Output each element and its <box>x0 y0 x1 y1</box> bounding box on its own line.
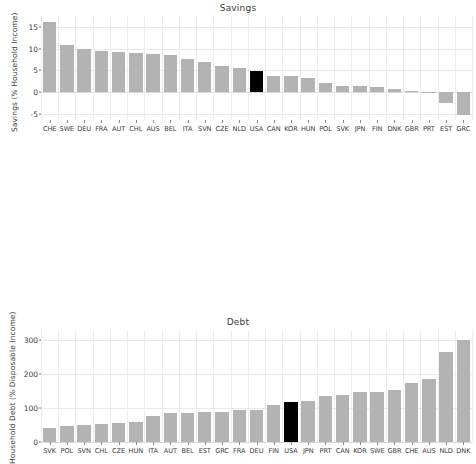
debt-y-tick-label: 300 <box>24 336 38 345</box>
debt-x-tick-mark <box>429 442 430 445</box>
x-label-grc: GRC <box>215 447 229 455</box>
x-label-cze: CZE <box>112 447 125 455</box>
bar-ita <box>146 416 159 442</box>
savings-vertical-gridline <box>403 16 404 120</box>
savings-x-tick-mark <box>377 120 378 123</box>
x-label-kor: KOR <box>353 447 366 455</box>
bar-chl <box>129 53 142 92</box>
savings-vertical-gridline <box>127 16 128 120</box>
x-label-svn: SVN <box>198 125 211 133</box>
savings-chart-title: Savings <box>0 3 476 13</box>
debt-vertical-gridline <box>162 330 163 442</box>
debt-vertical-gridline <box>351 330 352 442</box>
bar-grc <box>215 412 228 442</box>
x-label-deu: DEU <box>77 125 91 133</box>
savings-vertical-gridline <box>334 16 335 120</box>
bar-svn <box>198 62 211 91</box>
savings-x-tick-mark <box>274 120 275 123</box>
debt-x-tick-mark <box>188 442 189 445</box>
x-label-ita: ITA <box>148 447 158 455</box>
bar-aus <box>146 54 159 92</box>
bar-jpn <box>353 86 366 92</box>
x-label-aut: AUT <box>112 125 125 133</box>
savings-x-tick-mark <box>84 120 85 123</box>
debt-gridline <box>41 374 472 375</box>
debt-y-axis-label: Household Debt (% Disposable Income) <box>8 311 17 464</box>
bar-aut <box>112 52 125 91</box>
savings-x-tick-mark <box>446 120 447 123</box>
x-label-fra: FRA <box>95 125 107 133</box>
savings-gridline <box>41 49 472 50</box>
x-label-swe: SWE <box>60 125 75 133</box>
x-label-aus: AUS <box>146 125 159 133</box>
debt-y-tick-label: 100 <box>24 404 38 413</box>
x-label-fin: FIN <box>372 125 382 133</box>
debt-vertical-gridline <box>420 330 421 442</box>
debt-vertical-gridline <box>455 330 456 442</box>
bar-svk <box>43 428 56 442</box>
savings-vertical-gridline <box>58 16 59 120</box>
debt-y-tick-label: 0 <box>33 438 38 447</box>
savings-vertical-gridline <box>420 16 421 120</box>
bar-gbr <box>388 390 401 442</box>
savings-x-tick-mark <box>153 120 154 123</box>
debt-x-tick-mark <box>360 442 361 445</box>
debt-vertical-gridline <box>438 330 439 442</box>
x-label-est: EST <box>199 447 211 455</box>
debt-vertical-gridline <box>231 330 232 442</box>
bar-pol <box>60 426 73 442</box>
x-label-bel: BEL <box>164 125 176 133</box>
debt-vertical-gridline <box>58 330 59 442</box>
debt-x-tick-mark <box>205 442 206 445</box>
savings-vertical-gridline <box>455 16 456 120</box>
x-label-usa: USA <box>284 447 297 455</box>
savings-x-tick-mark <box>170 120 171 123</box>
bar-est <box>198 412 211 442</box>
bar-deu <box>77 49 90 91</box>
debt-x-tick-mark <box>136 442 137 445</box>
debt-x-tick-mark <box>412 442 413 445</box>
debt-vertical-gridline <box>213 330 214 442</box>
savings-gridline <box>41 92 472 93</box>
debt-vertical-gridline <box>317 330 318 442</box>
bar-svk <box>336 86 349 92</box>
savings-x-tick-mark <box>291 120 292 123</box>
bar-kor <box>284 76 297 92</box>
bar-fra <box>233 410 246 442</box>
savings-x-tick-mark <box>136 120 137 123</box>
debt-x-tick-mark <box>239 442 240 445</box>
x-label-prt: PRT <box>423 125 435 133</box>
savings-x-tick-mark <box>429 120 430 123</box>
bar-nld <box>233 68 246 92</box>
x-label-che: CHE <box>43 125 56 133</box>
debt-x-tick-mark <box>463 442 464 445</box>
debt-x-tick-mark <box>101 442 102 445</box>
x-label-est: EST <box>440 125 452 133</box>
savings-vertical-gridline <box>265 16 266 120</box>
debt-x-tick-mark <box>343 442 344 445</box>
savings-x-tick-mark <box>67 120 68 123</box>
bar-fra <box>95 51 108 92</box>
savings-y-tick-label: 5 <box>33 66 38 75</box>
savings-x-tick-mark <box>343 120 344 123</box>
savings-x-tick-mark <box>325 120 326 123</box>
x-label-pol: POL <box>61 447 74 455</box>
savings-x-tick-mark <box>308 120 309 123</box>
debt-y-tick-label: 200 <box>24 370 38 379</box>
savings-vertical-gridline <box>231 16 232 120</box>
x-label-ita: ITA <box>183 125 193 133</box>
debt-vertical-gridline <box>75 330 76 442</box>
savings-vertical-gridline <box>248 16 249 120</box>
x-label-deu: DEU <box>250 447 264 455</box>
savings-x-tick-mark <box>205 120 206 123</box>
bar-usa <box>250 71 263 92</box>
x-label-nld: NLD <box>233 125 246 133</box>
debt-x-tick-mark <box>119 442 120 445</box>
x-label-chl: CHL <box>95 447 108 455</box>
savings-y-tick-label: -5 <box>31 109 38 118</box>
debt-vertical-gridline <box>179 330 180 442</box>
bar-grc <box>457 92 470 115</box>
bar-swe <box>370 392 383 442</box>
savings-x-tick-mark <box>412 120 413 123</box>
x-label-gbr: GBR <box>387 447 401 455</box>
